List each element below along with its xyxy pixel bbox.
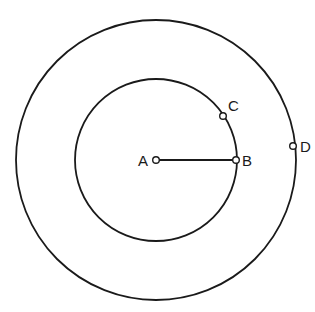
point-D-marker (290, 143, 297, 150)
point-B-marker (233, 157, 240, 164)
point-C-label: C (228, 97, 239, 114)
point-D-label: D (300, 138, 311, 155)
point-D: D (290, 138, 311, 155)
concentric-circles-diagram: A B C D (0, 0, 315, 312)
point-A-marker (153, 157, 160, 164)
point-C: C (220, 97, 239, 119)
point-C-marker (220, 113, 227, 120)
point-B-label: B (242, 152, 252, 169)
point-B: B (233, 152, 252, 169)
point-A-label: A (138, 152, 148, 169)
point-A: A (138, 152, 159, 169)
